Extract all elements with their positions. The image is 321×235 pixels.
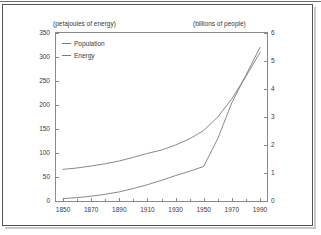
x-minor-tick-mark: [246, 199, 247, 201]
x-tick-label: 1950: [192, 206, 216, 213]
left-tick-label: 300: [26, 53, 50, 60]
legend-line-icon: [62, 43, 71, 44]
left-tick-mark: [56, 105, 59, 106]
left-tick-label: 250: [26, 77, 50, 84]
x-tick-mark: [147, 198, 148, 201]
chart-legend: Population Energy: [62, 38, 105, 62]
legend-item-population: Population: [62, 38, 105, 48]
right-tick-mark: [264, 61, 267, 62]
right-axis-caption: (billions of people): [193, 20, 246, 27]
right-tick-label: 6: [271, 29, 285, 36]
left-tick-mark: [56, 177, 59, 178]
x-tick-label: 1970: [220, 206, 244, 213]
x-minor-tick-mark: [77, 199, 78, 201]
x-tick-label: 1910: [135, 206, 159, 213]
x-tick-mark: [119, 198, 120, 201]
x-tick-mark: [260, 198, 261, 201]
left-tick-label: 100: [26, 149, 50, 156]
left-tick-label: 350: [26, 29, 50, 36]
x-minor-tick-mark: [162, 199, 163, 201]
x-tick-mark: [176, 198, 177, 201]
right-tick-label: 4: [271, 85, 285, 92]
right-tick-mark: [264, 201, 267, 202]
left-tick-mark: [56, 153, 59, 154]
series-line-population: [63, 53, 260, 170]
x-tick-label: 1990: [248, 206, 272, 213]
left-tick-label: 50: [26, 173, 50, 180]
right-tick-mark: [264, 173, 267, 174]
left-tick-mark: [56, 201, 59, 202]
right-tick-label: 3: [271, 113, 285, 120]
screenshot-frame: (petajoules of energy) (billions of peop…: [0, 0, 321, 235]
right-tick-label: 5: [271, 57, 285, 64]
right-tick-label: 1: [271, 169, 285, 176]
x-minor-tick-mark: [133, 199, 134, 201]
x-tick-label: 1850: [51, 206, 75, 213]
series-line-energy: [63, 47, 260, 198]
right-tick-label: 0: [271, 197, 285, 204]
left-axis-caption: (petajoules of energy): [53, 20, 116, 27]
legend-line-icon: [62, 55, 71, 56]
left-tick-mark: [56, 129, 59, 130]
x-tick-mark: [91, 198, 92, 201]
right-tick-mark: [264, 89, 267, 90]
right-tick-mark: [264, 117, 267, 118]
left-tick-mark: [56, 81, 59, 82]
legend-label-population: Population: [74, 40, 105, 47]
right-tick-mark: [264, 33, 267, 34]
legend-item-energy: Energy: [62, 50, 105, 60]
x-minor-tick-mark: [190, 199, 191, 201]
right-tick-label: 2: [271, 141, 285, 148]
x-minor-tick-mark: [218, 199, 219, 201]
left-tick-mark: [56, 33, 59, 34]
x-tick-mark: [232, 198, 233, 201]
right-tick-mark: [264, 145, 267, 146]
legend-label-energy: Energy: [74, 52, 95, 59]
left-tick-label: 150: [26, 125, 50, 132]
x-tick-mark: [63, 198, 64, 201]
left-tick-label: 0: [26, 197, 50, 204]
x-tick-label: 1870: [79, 206, 103, 213]
left-tick-mark: [56, 57, 59, 58]
x-tick-label: 1890: [107, 206, 131, 213]
left-tick-label: 200: [26, 101, 50, 108]
x-tick-mark: [204, 198, 205, 201]
x-tick-label: 1930: [164, 206, 188, 213]
dual-axis-line-chart: (petajoules of energy) (billions of peop…: [0, 0, 321, 235]
x-minor-tick-mark: [105, 199, 106, 201]
